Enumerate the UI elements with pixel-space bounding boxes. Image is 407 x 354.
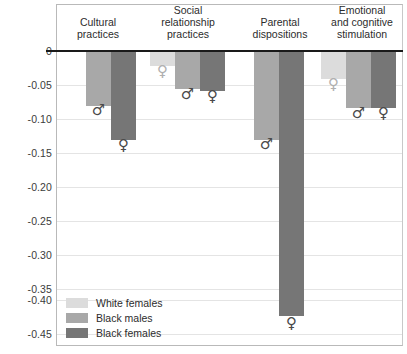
legend-label-white-females: White females [96,297,163,309]
y-tick--0.20: -0.20 [2,181,52,193]
bar-chart: 0 -0.05 -0.10 -0.15 -0.20 -0.25 -0.30 -0… [0,0,407,354]
legend-item-black-females: Black females [66,326,163,340]
group-label-emotional-and-cognitive-stimulation: Emotional and cognitive stimulation [320,4,404,41]
group-label-parental-dispositions: Parental dispositions [240,16,320,40]
legend-swatch-black-males [66,313,88,323]
bar-emotional-and-cognitive-stimulation-black-females [371,52,396,108]
bar-parental-dispositions-black-females [279,52,304,316]
y-tick--0.05: -0.05 [2,79,52,91]
y-tick-0: 0 [2,45,52,57]
y-tick--0.30: -0.30 [2,249,52,261]
gridline--0.35 [57,289,402,290]
bar-cultural-practices-black-males [86,52,111,106]
symbol-emotional-and-cognitive-stimulation-white-females: ♀ [321,77,346,92]
legend-label-black-males: Black males [96,312,153,324]
y-tick--0.10: -0.10 [2,113,52,125]
bar-parental-dispositions-black-males [254,52,279,140]
legend-swatch-black-females [66,328,88,338]
bar-social-relationship-practices-black-males [175,52,200,89]
y-tick--0.40: -0.40 [2,294,52,306]
gridline--0.15 [57,153,402,154]
group-label-social-relationship-practices: Social relationship practices [148,4,228,41]
group-label-cultural-practices: Cultural practices [63,16,133,40]
gridline--0.25 [57,221,402,222]
bar-emotional-and-cognitive-stimulation-black-males [346,52,371,108]
symbol-parental-dispositions-black-males: ♂ [254,137,279,152]
y-tick--0.45: -0.45 [2,328,52,340]
symbol-parental-dispositions-black-females: ♀ [279,316,304,331]
legend-label-black-females: Black females [96,327,161,339]
symbol-cultural-practices-black-males: ♂ [86,103,111,118]
symbol-emotional-and-cognitive-stimulation-black-males: ♂ [346,106,371,121]
symbol-emotional-and-cognitive-stimulation-black-females: ♀ [371,106,396,121]
legend: White females Black males Black females [66,296,163,341]
gridline--0.20 [57,187,402,188]
legend-item-white-females: White females [66,296,163,310]
symbol-social-relationship-practices-white-females: ♀ [150,64,175,79]
symbol-cultural-practices-black-females: ♀ [111,138,136,153]
symbol-social-relationship-practices-black-males: ♂ [175,87,200,102]
symbol-social-relationship-practices-black-females: ♀ [200,89,225,104]
y-axis: 0 -0.05 -0.10 -0.15 -0.20 -0.25 -0.30 -0… [0,0,52,354]
y-tick--0.25: -0.25 [2,215,52,227]
y-tick--0.15: -0.15 [2,147,52,159]
bar-cultural-practices-black-females [111,52,136,140]
legend-swatch-white-females [66,298,88,308]
gridline--0.30 [57,255,402,256]
legend-item-black-males: Black males [66,311,163,325]
bar-social-relationship-practices-black-females [200,52,225,91]
